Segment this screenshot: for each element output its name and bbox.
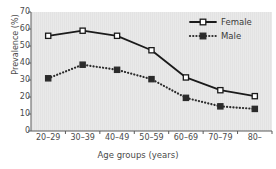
data-point-male-6 — [252, 106, 257, 111]
data-point-male-4 — [183, 95, 188, 100]
data-point-male-3 — [149, 77, 154, 82]
x-axis-tick-labels: 20–2930–3940–4950–5960–6970–7980– — [0, 134, 276, 148]
data-point-male-1 — [80, 62, 85, 67]
x-tick-label: 80– — [248, 134, 262, 142]
prevalence-by-age-line-chart: Prevalence (%) 010203040506070 FemaleMal… — [0, 0, 276, 169]
data-point-female-3 — [149, 48, 154, 53]
legend-label-female: Female — [221, 17, 252, 27]
data-point-female-2 — [114, 33, 119, 38]
data-point-female-6 — [252, 94, 257, 99]
data-point-male-5 — [218, 104, 223, 109]
x-tick-label: 40–49 — [105, 134, 129, 142]
data-point-female-1 — [80, 28, 85, 33]
x-tick-label: 70–79 — [208, 134, 232, 142]
legend-label-male: Male — [221, 31, 241, 41]
data-point-male-2 — [114, 67, 119, 72]
x-axis-title: Age groups (years) — [0, 150, 276, 160]
legend-marker-female — [200, 19, 206, 25]
data-point-male-0 — [46, 76, 51, 81]
legend-marker-male — [200, 33, 206, 39]
data-point-female-5 — [218, 88, 223, 93]
data-point-female-4 — [183, 75, 188, 80]
x-tick-label: 30–39 — [70, 134, 94, 142]
x-tick-label: 50–59 — [139, 134, 163, 142]
x-tick-label: 20–29 — [36, 134, 60, 142]
x-tick-label: 60–69 — [174, 134, 198, 142]
data-point-female-0 — [46, 33, 51, 38]
